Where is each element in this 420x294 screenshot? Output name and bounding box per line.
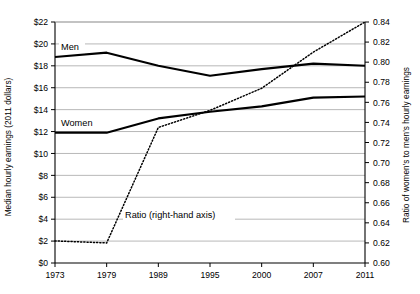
left-tick-label: $18 [34, 61, 49, 71]
x-axis-ticks: 1973197919891995200020072011 [45, 263, 374, 280]
earnings-ratio-chart: $0$2$4$6$8$10$12$14$16$18$20$22 0.600.62… [0, 0, 420, 294]
chart-svg: $0$2$4$6$8$10$12$14$16$18$20$22 0.600.62… [0, 0, 420, 294]
men-series-label: Men [61, 42, 79, 52]
right-tick-label: 0.78 [373, 77, 390, 87]
left-tick-label: $22 [34, 17, 49, 27]
left-tick-label: $14 [34, 105, 49, 115]
right-axis-ticks: 0.600.620.640.660.680.700.720.740.760.78… [365, 17, 390, 268]
right-tick-label: 0.84 [373, 17, 390, 27]
women-series-label: Women [61, 118, 93, 128]
right-tick-label: 0.62 [373, 238, 390, 248]
left-tick-label: $6 [38, 192, 48, 202]
right-tick-label: 0.70 [373, 158, 390, 168]
x-tick-label: 1995 [200, 270, 219, 280]
left-tick-label: $2 [38, 236, 48, 246]
axes-group [55, 22, 365, 263]
series-line-men [55, 53, 365, 76]
x-tick-label: 2011 [356, 270, 375, 280]
right-tick-label: 0.72 [373, 138, 390, 148]
gridlines-group [55, 22, 365, 241]
x-tick-label: 1979 [97, 270, 116, 280]
left-tick-label: $4 [38, 214, 48, 224]
right-tick-label: 0.60 [373, 258, 390, 268]
right-axis-title: Ratio of women's to men's hourly earning… [401, 67, 411, 223]
left-tick-label: $8 [38, 171, 48, 181]
left-tick-label: $20 [34, 39, 49, 49]
left-tick-label: $10 [34, 149, 49, 159]
x-tick-label: 1973 [45, 270, 64, 280]
left-tick-label: $0 [38, 258, 48, 268]
right-tick-label: 0.64 [373, 218, 390, 228]
left-axis-ticks: $0$2$4$6$8$10$12$14$16$18$20$22 [34, 17, 55, 268]
x-tick-label: 2000 [252, 270, 271, 280]
left-axis-title: Median hourly earnings (2011 dollars) [3, 77, 13, 216]
right-tick-label: 0.74 [373, 118, 390, 128]
left-tick-label: $12 [34, 127, 49, 137]
right-tick-label: 0.82 [373, 37, 390, 47]
right-tick-label: 0.68 [373, 178, 390, 188]
left-tick-label: $16 [34, 83, 49, 93]
x-tick-label: 1989 [149, 270, 168, 280]
ratio-series-label: Ratio (right-hand axis) [125, 210, 215, 220]
right-tick-label: 0.80 [373, 57, 390, 67]
right-tick-label: 0.76 [373, 98, 390, 108]
series-annotations: MenWomenRatio (right-hand axis) [59, 41, 235, 221]
right-tick-label: 0.66 [373, 198, 390, 208]
x-tick-label: 2007 [304, 270, 323, 280]
